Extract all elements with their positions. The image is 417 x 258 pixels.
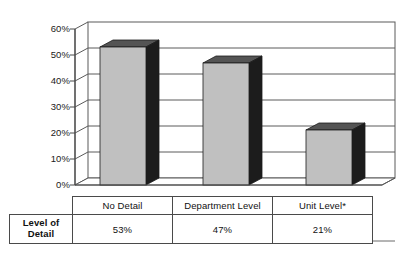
bar-front-face xyxy=(306,130,352,185)
bar-side-face xyxy=(352,123,365,185)
table-value-no-detail: 53% xyxy=(73,215,173,244)
bar-front-face xyxy=(203,63,249,185)
bar-unit-level xyxy=(306,123,365,185)
bar-side-face xyxy=(249,56,262,185)
data-table: No Detail Department Level Unit Level* L… xyxy=(9,196,373,244)
row-header-line-1: Level of xyxy=(23,217,60,228)
table-corner-blank xyxy=(10,197,73,215)
table-category-no-detail: No Detail xyxy=(73,197,173,215)
chart-figure: 60% 50% 40% 30% 20% 10% 0% xyxy=(0,0,417,258)
bar-side-face xyxy=(146,40,159,185)
left-side-wall xyxy=(75,22,88,185)
table-value-unit-level: 21% xyxy=(273,215,373,244)
row-header-line-2: Detail xyxy=(28,228,54,239)
bar-no-detail xyxy=(100,40,159,185)
bar-department-level xyxy=(203,56,262,185)
table-row-values: Level of Detail 53% 47% 21% xyxy=(10,215,373,244)
bar-front-face xyxy=(100,47,146,185)
table-category-unit-level: Unit Level* xyxy=(273,197,373,215)
table-value-department-level: 47% xyxy=(173,215,273,244)
y-tick-marks xyxy=(70,29,75,185)
table-row-header: Level of Detail xyxy=(10,215,73,244)
table-row-categories: No Detail Department Level Unit Level* xyxy=(10,197,373,215)
table-category-department-level: Department Level xyxy=(173,197,273,215)
